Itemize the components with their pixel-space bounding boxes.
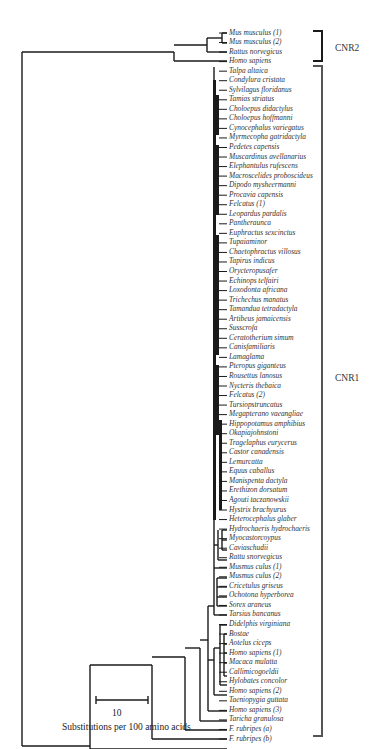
leaf-label: Pteropus giganteus xyxy=(229,362,286,370)
leaf-label: Manispenta dactyla xyxy=(229,477,288,485)
leaf-label: Megapterano vaeangliae xyxy=(229,410,303,418)
leaf-label: Talpa altaica xyxy=(229,67,268,75)
leaf-label: Callimicogoeldii xyxy=(229,668,279,676)
leaf-label: Heterocephalus glaber xyxy=(229,515,297,523)
leaf-label: Hippopotamus amphibius xyxy=(229,420,305,428)
leaf-label: Felcatus (1) xyxy=(229,200,265,208)
leaf-label: F. rubripes (b) xyxy=(229,735,272,743)
leaf-label: Ochotona hyperborea xyxy=(229,591,294,599)
leaf-label: F. rubripes (a) xyxy=(229,725,272,733)
leaf-label: Elephantulus rufescens xyxy=(229,162,298,170)
leaf-label: Chaetophractus villosus xyxy=(229,248,301,256)
leaf-label: Cynocephalus variegatus xyxy=(229,124,304,132)
leaf-label: Myrmecopha gatridactyla xyxy=(229,133,306,141)
leaf-label: Loxodonta africana xyxy=(229,286,288,294)
leaf-label: Muscardinus avellanarius xyxy=(229,153,306,161)
leaf-label: Echinops telfairi xyxy=(229,277,278,285)
cnr2-bracket xyxy=(313,31,322,61)
leaf-label: Condylura cristata xyxy=(229,76,285,84)
leaf-label: Macaca mulatta xyxy=(229,658,277,666)
leaf-label: Rousettus lanosus xyxy=(229,372,282,380)
leaf-label: Sorex araneus xyxy=(229,601,271,609)
leaf-label: Rattu snorvegicus xyxy=(229,553,282,561)
leaf-label: Tapirus indicus xyxy=(229,257,275,265)
leaf-label: Rattus norvegicus xyxy=(229,48,282,56)
leaf-label: Okapiajohnstoni xyxy=(229,429,278,437)
scale-bar xyxy=(96,696,148,704)
leaf-label: Tarsius bancanus xyxy=(229,610,281,618)
leaf-label: Nycteris thebaica xyxy=(229,382,281,390)
leaf-label: Homo sapiens xyxy=(229,57,271,65)
leaf-label: Canisfamiliaris xyxy=(229,343,275,351)
leaf-label: Musmus culus (1) xyxy=(229,563,282,571)
cnr1-bracket xyxy=(313,66,322,736)
leaf-label: Tamandua tetradactyla xyxy=(229,305,298,313)
leaf-label: Hystrix brachyurus xyxy=(229,506,286,514)
leaf-label: Tupaiaminor xyxy=(229,238,267,246)
leaf-label: Homo sapiens (2) xyxy=(229,687,282,695)
leaf-label: Macroscelides proboscideus xyxy=(229,172,313,180)
group-label-cnr1: CNR1 xyxy=(335,373,359,383)
leaf-label: Lamaglama xyxy=(229,353,264,361)
leaf-label: Lemurcatta xyxy=(229,458,263,466)
leaf-label: Pedetes capensis xyxy=(229,143,279,151)
leaf-label: Taeniopygia guttata xyxy=(229,696,288,704)
leaf-label: Hydrochaeris hydrochaeris xyxy=(229,525,310,533)
leaf-label: Didelphis virginiana xyxy=(229,620,290,628)
leaf-label: Ceratotherium simum xyxy=(229,334,294,342)
leaf-label: Taricha granulosa xyxy=(229,715,284,723)
leaf-label: Musmus culus (2) xyxy=(229,572,282,580)
leaf-label: Felcatus (2) xyxy=(229,391,265,399)
leaf-label: Hylobates concolor xyxy=(229,677,287,685)
leaf-label: Susscrofa xyxy=(229,324,257,332)
leaf-label: Cricetulus griseus xyxy=(229,582,283,590)
leaf-label: Pantheraunca xyxy=(229,219,271,227)
leaf-label: Mus musculus (1) xyxy=(229,29,282,37)
leaf-label: Homo sapiens (3) xyxy=(229,706,282,714)
scale-bar-value: 10 xyxy=(112,708,122,718)
tree-branches xyxy=(22,33,227,749)
leaf-label: Sylvilagus floridanus xyxy=(229,86,292,94)
group-brackets xyxy=(313,31,322,736)
leaf-label: Tursiopstruncatus xyxy=(229,401,282,409)
leaf-label: Tamias striatus xyxy=(229,95,274,103)
leaf-label: Equus caballus xyxy=(229,467,274,475)
group-label-cnr2: CNR2 xyxy=(335,43,359,53)
leaf-label: Homo sapiens (1) xyxy=(229,649,282,657)
leaf-label: Aotelus ciceps xyxy=(229,639,271,647)
leaf-label: Dipodo mysheermanni xyxy=(229,181,296,189)
leaf-label: Agouti taczanowskii xyxy=(229,496,289,504)
leaf-label: Trichechus manatus xyxy=(229,296,288,304)
leaf-label: Orycteropusafer xyxy=(229,267,278,275)
leaf-label: Bostae xyxy=(229,630,249,638)
leaf-label: Erethizon dorsatum xyxy=(229,486,287,494)
scale-bar-caption: Substitutions per 100 amino acids xyxy=(62,722,191,732)
leaf-label: Castor canadensis xyxy=(229,448,284,456)
leaf-label: Choloepus hoffmanni xyxy=(229,114,292,122)
leaf-label: Myocastorcoypus xyxy=(229,534,281,542)
leaf-label: Mus musculus (2) xyxy=(229,38,282,46)
leaf-label: Choloepus didactylus xyxy=(229,105,293,113)
leaf-label: Euphractus sexcinctus xyxy=(229,229,295,237)
leaf-label: Caviaschudii xyxy=(229,544,268,552)
phylogenetic-tree xyxy=(0,0,380,749)
leaf-label: Procavia capensis xyxy=(229,191,283,199)
leaf-label: Artibeus jamaicensis xyxy=(229,315,291,323)
leaf-label: Leopardus pardalis xyxy=(229,210,287,218)
leaf-label: Tragelaphus eurycerus xyxy=(229,439,297,447)
